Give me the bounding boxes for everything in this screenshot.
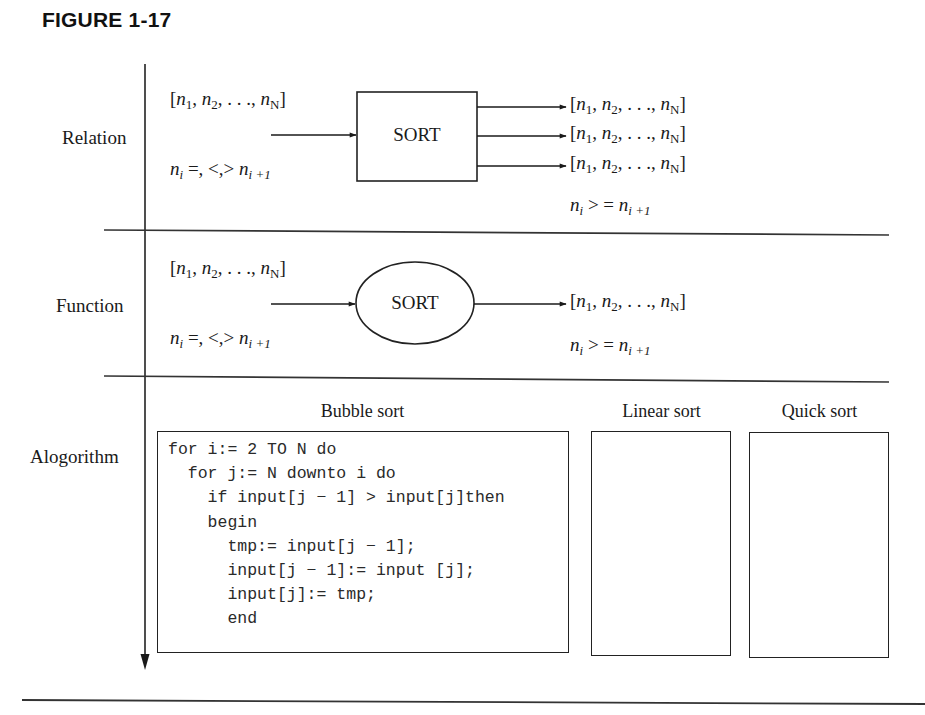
ellipsis: , . . .,: [218, 88, 261, 109]
linear-sort-title: Linear sort: [592, 401, 731, 422]
relation-output-condition: ni > = ni +1: [570, 194, 650, 216]
bracket-close: ]: [679, 122, 685, 143]
bubble-sort-title: Bubble sort: [157, 401, 568, 422]
ellipsis: , . . .,: [618, 122, 661, 143]
var-n: n: [661, 93, 671, 114]
operator: =, <,>: [183, 327, 239, 348]
ellipsis: , . . .,: [218, 257, 261, 278]
sep: ,: [192, 88, 202, 109]
row-label-function: Function: [56, 295, 124, 317]
var-n: n: [619, 194, 629, 215]
bubble-sort-box: for i:= 2 TO N do for j:= N downto i do …: [157, 431, 569, 653]
var-n: n: [176, 88, 186, 109]
var-n: n: [176, 257, 186, 278]
function-output-list: [n1, n2, . . ., nN]: [570, 290, 686, 312]
sub: i +1: [628, 203, 650, 218]
sep: ,: [592, 152, 602, 173]
var-n: n: [576, 122, 586, 143]
quick-sort-title: Quick sort: [750, 401, 889, 422]
sub: i +1: [628, 343, 650, 358]
var-n: n: [261, 88, 271, 109]
divider-function-algorithm: [104, 376, 889, 382]
relation-input-condition: ni =, <,> ni +1: [170, 158, 271, 180]
ellipsis: , . . .,: [618, 93, 661, 114]
relation-sort-label: SORT: [357, 124, 477, 146]
ellipsis: , . . .,: [618, 290, 661, 311]
operator: =, <,>: [183, 158, 239, 179]
row-label-algorithm: Alogorithm: [30, 446, 119, 468]
sep: ,: [592, 122, 602, 143]
function-input-list: [n1, n2, . . ., nN]: [170, 257, 286, 279]
var-n: n: [602, 152, 612, 173]
divider-relation-function: [104, 230, 889, 235]
var-n: n: [202, 88, 212, 109]
bracket-close: ]: [279, 88, 285, 109]
var-n: n: [202, 257, 212, 278]
var-n: n: [602, 122, 612, 143]
operator: > =: [583, 194, 619, 215]
sub: i +1: [249, 336, 271, 351]
relation-output-list-2: [n1, n2, . . ., nN]: [570, 122, 686, 144]
quick-sort-box: [749, 432, 889, 658]
sep: ,: [192, 257, 202, 278]
linear-sort-box: [591, 431, 731, 656]
var-n: n: [576, 290, 586, 311]
relation-output-list-3: [n1, n2, . . ., nN]: [570, 152, 686, 174]
bracket-close: ]: [679, 152, 685, 173]
var-n: n: [170, 327, 180, 348]
var-n: n: [602, 93, 612, 114]
vertical-axis-arrow: [141, 64, 150, 670]
var-n: n: [576, 152, 586, 173]
bottom-rule: [22, 700, 925, 704]
var-n: n: [661, 152, 671, 173]
var-n: n: [602, 290, 612, 311]
operator: > =: [583, 334, 619, 355]
bracket-close: ]: [679, 93, 685, 114]
relation-input-list: [n1, n2, . . ., nN]: [170, 88, 286, 110]
bracket-close: ]: [679, 290, 685, 311]
var-n: n: [239, 158, 249, 179]
row-label-relation: Relation: [62, 127, 126, 149]
var-n: n: [661, 290, 671, 311]
relation-output-list-1: [n1, n2, . . ., nN]: [570, 93, 686, 115]
var-n: n: [261, 257, 271, 278]
sep: ,: [592, 93, 602, 114]
function-sort-label: SORT: [356, 292, 474, 314]
var-n: n: [570, 194, 580, 215]
var-n: n: [239, 327, 249, 348]
function-input-condition: ni =, <,> ni +1: [170, 327, 271, 349]
bubble-sort-code: for i:= 2 TO N do for j:= N downto i do …: [168, 438, 505, 632]
function-output-condition: ni > = ni +1: [570, 334, 650, 356]
sep: ,: [592, 290, 602, 311]
ellipsis: , . . .,: [618, 152, 661, 173]
var-n: n: [170, 158, 180, 179]
var-n: n: [661, 122, 671, 143]
figure-title: FIGURE 1-17: [42, 8, 171, 32]
sub: i +1: [249, 167, 271, 182]
var-n: n: [619, 334, 629, 355]
bracket-close: ]: [279, 257, 285, 278]
var-n: n: [570, 334, 580, 355]
var-n: n: [576, 93, 586, 114]
